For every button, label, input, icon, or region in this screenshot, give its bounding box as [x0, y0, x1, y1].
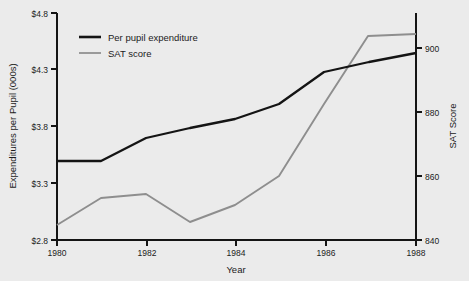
bottom-axis-tick-labels: 1980 1982 1984 1986 1988: [48, 248, 426, 258]
chart-container: $4.8 $4.3 $3.8 $3.3 $2.8 900 880 860 840: [0, 0, 469, 281]
right-tick-label-900: 900: [425, 44, 439, 54]
legend-label-per-pupil-expenditure: Per pupil expenditure: [108, 32, 198, 43]
x-tick-label-1982: 1982: [138, 248, 157, 258]
left-tick-label-3-3: $3.3: [31, 179, 48, 189]
left-tick-label-3-8: $3.8: [31, 122, 48, 132]
line-chart: $4.8 $4.3 $3.8 $3.3 $2.8 900 880 860 840: [0, 0, 469, 281]
series-line-per-pupil-expenditure: [57, 53, 416, 161]
x-tick-label-1984: 1984: [227, 248, 246, 258]
left-axis-tick-labels: $4.8 $4.3 $3.8 $3.3 $2.8: [31, 9, 48, 246]
right-tick-label-840: 840: [425, 236, 439, 246]
left-tick-label-4-8: $4.8: [31, 9, 48, 19]
right-tick-label-860: 860: [425, 172, 439, 182]
legend-label-sat-score: SAT score: [108, 48, 151, 59]
x-tick-label-1986: 1986: [317, 248, 336, 258]
left-tick-label-4-3: $4.3: [31, 65, 48, 75]
x-tick-label-1980: 1980: [48, 248, 67, 258]
y2-axis-title: SAT Score: [447, 103, 458, 148]
right-tick-label-880: 880: [425, 108, 439, 118]
left-tick-label-2-8: $2.8: [31, 236, 48, 246]
y-axis-title: Expenditures per Pupil (000s): [7, 63, 18, 188]
chart-legend: Per pupil expenditure SAT score: [79, 32, 198, 59]
right-axis-tick-labels: 900 880 860 840: [425, 44, 439, 246]
x-axis-title: Year: [226, 264, 245, 275]
x-tick-label-1988: 1988: [407, 248, 426, 258]
